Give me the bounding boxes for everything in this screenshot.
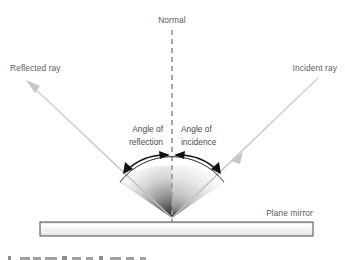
cut-off-caption (8, 256, 146, 260)
incident-ray-line (172, 78, 318, 218)
diagram-canvas: Normal Reflected ray Incident ray Angle … (0, 0, 345, 260)
reflected-ray-label: Reflected ray (10, 63, 61, 73)
plane-mirror (40, 222, 313, 236)
incident-ray-arrowhead (231, 152, 243, 164)
normal-label: Normal (158, 15, 186, 25)
incident-ray-label: Incident ray (293, 63, 338, 73)
reflection-diagram: Normal Reflected ray Incident ray Angle … (0, 0, 345, 260)
angle-of-incidence-label-line2: incidence (181, 137, 217, 147)
reflected-ray-line (28, 82, 172, 218)
plane-mirror-bar (40, 222, 313, 236)
plane-mirror-label: Plane mirror (266, 208, 313, 218)
angle-of-reflection-label-line2: reflection (129, 137, 163, 147)
reflected-ray (26, 80, 172, 218)
angle-of-incidence-arc-arrowhead-outer (211, 162, 221, 174)
angle-of-reflection-arc-arrowhead-outer (123, 162, 133, 174)
incident-ray (172, 78, 318, 218)
angle-of-incidence-label-line1: Angle of (181, 124, 212, 134)
angle-of-reflection-label-line1: Angle of (132, 124, 163, 134)
